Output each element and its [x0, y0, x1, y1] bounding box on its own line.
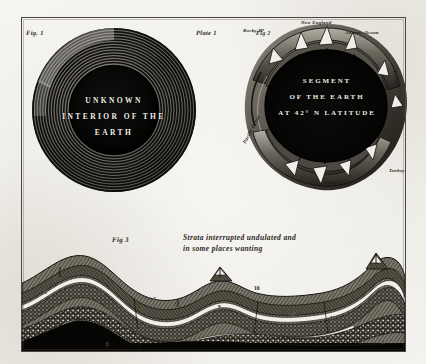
- figure-1-label: Fig. 1: [26, 30, 44, 37]
- figure-1-unknown-interior: UNKNOWN INTERIOR OF THE EARTH: [28, 24, 200, 196]
- geo-label-china: China: [325, 180, 339, 185]
- geo-label-atlantic-ocean: Atlantic Ocean: [345, 30, 379, 35]
- figure-3-svg: [22, 249, 405, 351]
- geological-plate: UNKNOWN INTERIOR OF THE EARTH: [0, 0, 426, 364]
- figure-3-strata-cross-section: 7 6 5 4 3 2 1 8 9 10 11 12 1: [22, 249, 405, 351]
- figure-1-svg: [28, 24, 200, 196]
- strata-caption-line-1: Strata interrupted undulated and: [183, 233, 333, 244]
- figure-2-label: Fig 2: [256, 31, 271, 37]
- strata-caption-line-2: in some places wanting: [183, 244, 333, 255]
- geo-label-turkey: Turkey: [389, 168, 405, 173]
- strata-caption: Strata interrupted undulated and in some…: [183, 233, 333, 254]
- figure-3-label: Fig 3: [112, 236, 129, 244]
- figure-2-earth-segment: SEGMENT OF THE EARTH AT 42° N LATITUDE R…: [237, 14, 417, 196]
- plate-title: Plate 1: [196, 30, 217, 37]
- geo-label-new-england: New England: [301, 20, 331, 25]
